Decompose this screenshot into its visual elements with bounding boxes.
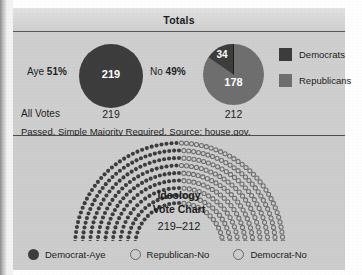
vote-legend: Democrat-Aye Republican-No Democrat-No (13, 241, 345, 268)
no-pie-dem-value: 34 (203, 49, 241, 60)
no-pie-rep-value: 178 (203, 76, 264, 88)
democrat-no-label: Democrat-No (250, 249, 307, 260)
legend-item-democrat-no: Democrat-No (233, 249, 307, 260)
legend-item-democrat-aye: Democrat-Aye (28, 249, 106, 260)
aye-label: Aye 51% (27, 66, 67, 77)
totals-title: Totals (163, 14, 194, 26)
republican-no-dot-icon (130, 249, 141, 260)
democrats-swatch-icon (279, 48, 292, 61)
democrats-label: Democrats (299, 49, 345, 60)
democrat-aye-label: Democrat-Aye (45, 249, 106, 260)
no-percent: 49% (166, 66, 186, 77)
no-word: No (150, 66, 163, 77)
legend-item-republican-no: Republican-No (130, 249, 210, 260)
all-votes-label: All Votes (21, 108, 60, 119)
democrat-aye-dot-icon (28, 249, 39, 260)
totals-header: Totals (13, 8, 345, 32)
page-edge-shadow (0, 0, 7, 275)
republican-no-label: Republican-No (147, 249, 210, 260)
republicans-swatch-icon (279, 74, 292, 87)
aye-pie-value: 219 (79, 68, 143, 80)
legend-item-democrats: Democrats (279, 48, 351, 61)
no-label: No 49% (150, 66, 186, 77)
aye-word: Aye (27, 66, 44, 77)
democrat-no-dot-icon (233, 249, 244, 260)
vote-results-panel: Totals Aye 51% 219 No 49% 34 178 All Vot… (13, 8, 345, 268)
party-legend: Democrats Republicans (279, 48, 351, 100)
legend-item-republicans: Republicans (279, 74, 351, 87)
republicans-label: Republicans (299, 75, 351, 86)
no-total-value: 212 (203, 108, 264, 120)
aye-total-value: 219 (79, 108, 143, 120)
aye-percent: 51% (47, 66, 67, 77)
totals-body: Aye 51% 219 No 49% 34 178 All Votes 219 … (13, 32, 345, 136)
